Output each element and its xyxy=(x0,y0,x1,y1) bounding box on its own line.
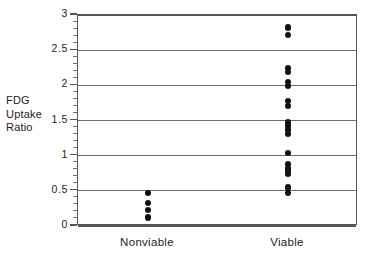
data-point xyxy=(145,200,151,206)
y-tick-label-0.5: 0.5 xyxy=(36,183,68,195)
y-tick-label-1.5: 1.5 xyxy=(36,113,68,125)
figure-dot-plot: FDG Uptake Ratio 00.511.522.53 Nonviable… xyxy=(0,0,369,264)
y-tick-major-1 xyxy=(70,154,77,155)
y-tick-label-2: 2 xyxy=(36,77,68,89)
gridline-2 xyxy=(78,85,356,86)
data-point xyxy=(285,83,291,89)
x-category-label-viable: Viable xyxy=(270,236,304,248)
data-point xyxy=(285,32,291,38)
y-tick-major-1.5 xyxy=(70,119,77,120)
data-point xyxy=(285,190,291,196)
y-tick-major-2 xyxy=(70,84,77,85)
gridline-3 xyxy=(78,14,356,15)
y-tick-label-0: 0 xyxy=(36,218,68,230)
gridline-1 xyxy=(78,155,356,156)
gridline-2.5 xyxy=(78,50,356,51)
data-point xyxy=(145,207,151,213)
y-tick-label-2.5: 2.5 xyxy=(36,42,68,54)
data-point xyxy=(285,171,291,177)
y-tick-major-2.5 xyxy=(70,49,77,50)
gridline-0 xyxy=(78,225,356,226)
y-tick-label-3: 3 xyxy=(36,7,68,19)
y-tick-major-0.5 xyxy=(70,189,77,190)
x-category-label-nonviable: Nonviable xyxy=(120,236,174,248)
data-point xyxy=(285,103,291,109)
data-point xyxy=(285,24,291,30)
y-tick-major-0 xyxy=(70,224,77,225)
plot-area xyxy=(77,14,357,225)
data-point xyxy=(285,69,291,75)
y-tick-label-1: 1 xyxy=(36,148,68,160)
data-point xyxy=(285,131,291,137)
data-point xyxy=(145,214,151,220)
gridline-0.5 xyxy=(78,190,356,191)
data-point xyxy=(145,190,151,196)
y-tick-major-3 xyxy=(70,13,77,14)
gridline-1.5 xyxy=(78,120,356,121)
y-axis-title-line-1: FDG xyxy=(6,94,68,108)
